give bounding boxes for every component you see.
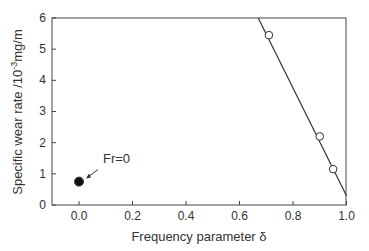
- y-axis-label: Specific wear rate /10-3mg/m: [9, 29, 25, 195]
- x-tick-label: 0.2: [124, 209, 141, 223]
- open-data-point: [316, 133, 324, 141]
- x-axis: 0.00.20.40.60.81.0: [71, 201, 356, 223]
- annotation-label: Fr=0: [103, 151, 130, 166]
- x-axis-label: Frequency parameter δ: [131, 229, 266, 244]
- x-tick-label: 0.4: [178, 209, 195, 223]
- plot-frame: [52, 18, 346, 205]
- plot-area: Fr=0: [75, 18, 347, 196]
- x-tick-label: 0.8: [285, 209, 302, 223]
- x-tick-label: 0.0: [71, 209, 88, 223]
- open-data-point: [265, 31, 273, 39]
- x-tick-label: 0.6: [231, 209, 248, 223]
- y-tick-label: 0: [39, 198, 46, 212]
- y-tick-label: 1: [39, 167, 46, 181]
- chart: 0123456 0.00.20.40.60.81.0 Fr=0 Frequenc…: [0, 0, 369, 251]
- y-tick-label: 3: [39, 104, 46, 118]
- y-tick-label: 2: [39, 136, 46, 150]
- open-data-point: [329, 165, 337, 173]
- filled-data-point: [75, 177, 84, 186]
- y-tick-label: 4: [39, 73, 46, 87]
- y-tick-label: 6: [39, 11, 46, 25]
- y-axis: 0123456: [39, 11, 56, 212]
- arrow-head-icon: [86, 174, 91, 179]
- x-tick-label: 1.0: [338, 209, 355, 223]
- y-tick-label: 5: [39, 42, 46, 56]
